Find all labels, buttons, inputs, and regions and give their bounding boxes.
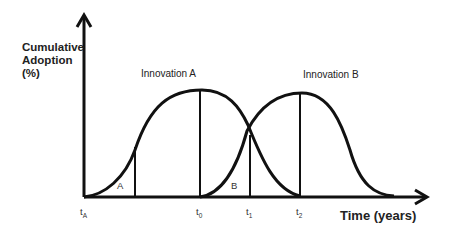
innovation-b-curve — [200, 93, 394, 197]
x-axis-label: Time (years) — [340, 208, 416, 223]
y-axis-label: Cumulative Adoption (%) — [22, 41, 84, 80]
y-label-line-3: (%) — [22, 67, 84, 80]
tick-tA-sub: A — [83, 212, 87, 219]
innovation-b-label: Innovation B — [303, 69, 359, 80]
tick-t1: t1 — [246, 206, 252, 219]
y-label-line-2: Adoption — [22, 54, 84, 67]
innovation-a-label: Innovation A — [141, 68, 196, 79]
tick-t0: t0 — [196, 206, 202, 219]
y-label-line-1: Cumulative — [22, 41, 84, 54]
diagram-canvas — [0, 0, 452, 237]
region-b-label: B — [231, 180, 237, 191]
tick-t2-sub: 2 — [299, 212, 303, 219]
tick-t2: t2 — [296, 206, 302, 219]
tick-tA: tA — [80, 206, 87, 219]
tick-t1-sub: 1 — [249, 212, 253, 219]
adoption-diagram: Cumulative Adoption (%) Time (years) Inn… — [0, 0, 452, 237]
tick-t0-sub: 0 — [199, 212, 203, 219]
region-a-label: A — [117, 180, 123, 191]
